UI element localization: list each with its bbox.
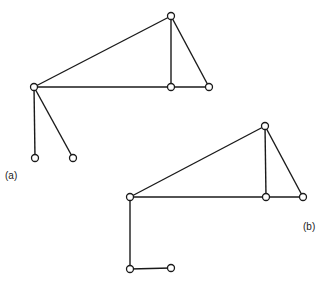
graph-edge xyxy=(34,16,171,87)
graph-node xyxy=(263,194,270,201)
graph-edge xyxy=(171,16,209,87)
graph-edge xyxy=(130,126,265,197)
graph-node xyxy=(32,155,39,162)
graph-node xyxy=(127,194,134,201)
graph-node xyxy=(168,84,175,91)
graph-node xyxy=(31,84,38,91)
graph-node xyxy=(127,266,134,273)
graph-edge xyxy=(265,126,266,197)
label-a: (a) xyxy=(5,170,17,181)
graph-figure xyxy=(0,0,323,287)
graph-edge xyxy=(34,87,35,158)
graph-a xyxy=(31,13,213,162)
graph-node xyxy=(70,155,77,162)
label-b: (b) xyxy=(303,221,315,232)
diagram-canvas: (a) (b) xyxy=(0,0,323,287)
graph-node xyxy=(206,84,213,91)
graph-node xyxy=(300,194,307,201)
graph-edge xyxy=(34,87,73,158)
graph-b xyxy=(127,123,307,273)
graph-edge xyxy=(130,268,171,269)
graph-node xyxy=(262,123,269,130)
graph-node xyxy=(168,13,175,20)
graph-node xyxy=(168,265,175,272)
graph-edge xyxy=(265,126,303,197)
